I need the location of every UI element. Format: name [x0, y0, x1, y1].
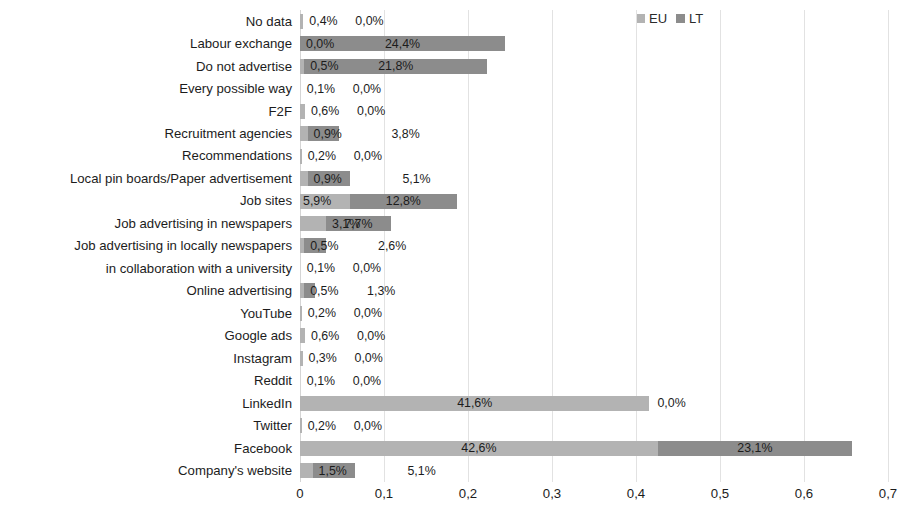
bar-value-label: 0,0% [353, 82, 381, 96]
bar-segment-eu[interactable]: 0,9% [300, 126, 308, 141]
bar-row[interactable]: in collaboration with a university0,1%0,… [300, 257, 888, 279]
category-label: Company's website [178, 464, 300, 477]
bar-value-label: 0,9% [314, 172, 342, 186]
x-tick-label: 0,3 [543, 486, 561, 501]
category-label: LinkedIn [242, 397, 300, 410]
category-label: Do not advertise [196, 60, 300, 73]
bar-value-label: 41,6% [457, 396, 492, 410]
category-label: in collaboration with a university [106, 262, 300, 275]
bar-value-label: 0,4% [309, 14, 337, 28]
bar-stack: 0,2%0,0% [300, 149, 888, 164]
x-tick-label: 0 [296, 486, 303, 501]
x-tick-label: 0,4 [627, 486, 645, 501]
bar-segment-eu[interactable]: 1,5% [300, 463, 313, 478]
bar-row[interactable]: Job advertising in newspapers3,1%7,7% [300, 212, 888, 234]
bar-value-label: 0,1% [307, 261, 335, 275]
bar-segment-eu[interactable]: 0,2% [300, 306, 302, 321]
bar-row[interactable]: Facebook42,6%23,1% [300, 437, 888, 459]
bar-segment-eu[interactable]: 0,2% [300, 418, 302, 433]
bar-value-label: 0,0% [353, 374, 381, 388]
bar-stack: 0,0%24,4% [300, 36, 888, 51]
bar-rows: No data0,4%0,0%Labour exchange0,0%24,4%D… [300, 10, 888, 482]
bar-segment-eu[interactable]: 42,6% [300, 441, 658, 456]
bar-value-label: 0,2% [308, 149, 336, 163]
category-label: Reddit [254, 374, 300, 387]
category-label: Job advertising in newspapers [115, 217, 300, 230]
bar-segment-lt[interactable]: 12,8% [350, 194, 458, 209]
category-label: Facebook [234, 442, 300, 455]
category-label: Recruitment agencies [164, 127, 300, 140]
bar-row[interactable]: Instagram0,3%0,0% [300, 347, 888, 369]
bar-value-label: 0,9% [314, 127, 342, 141]
bar-row[interactable]: Job sites5,9%12,8% [300, 190, 888, 212]
bar-row[interactable]: YouTube0,2%0,0% [300, 302, 888, 324]
bar-segment-eu[interactable]: 3,1% [300, 216, 326, 231]
bar-stack: 0,5%1,3% [300, 283, 888, 298]
category-label: Twitter [253, 419, 300, 432]
bar-stack: 42,6%23,1% [300, 441, 888, 456]
bar-value-label: 0,5% [310, 239, 338, 253]
bar-value-label: 0,0% [355, 14, 383, 28]
bar-row[interactable]: No data0,4%0,0% [300, 10, 888, 32]
bar-segment-eu[interactable]: 41,6% [300, 396, 649, 411]
bar-row[interactable]: Local pin boards/Paper advertisement0,9%… [300, 167, 888, 189]
plot-area: No data0,4%0,0%Labour exchange0,0%24,4%D… [300, 10, 888, 482]
category-label: Labour exchange [190, 37, 300, 50]
bar-row[interactable]: Labour exchange0,0%24,4% [300, 32, 888, 54]
x-tick-label: 0,5 [711, 486, 729, 501]
gridline-0,7 [888, 10, 889, 482]
bar-segment-eu[interactable]: 0,1% [300, 261, 301, 276]
x-tick-label: 0,2 [459, 486, 477, 501]
bar-segment-eu[interactable]: 0,3% [300, 351, 303, 366]
bar-value-label: 12,8% [386, 194, 421, 208]
bar-stack: 0,6%0,0% [300, 104, 888, 119]
bar-row[interactable]: Reddit0,1%0,0% [300, 370, 888, 392]
bar-segment-eu[interactable]: 5,9% [300, 194, 350, 209]
bar-stack: 0,2%0,0% [300, 418, 888, 433]
category-label: Job sites [240, 194, 300, 207]
bar-value-label: 0,0% [353, 261, 381, 275]
bar-row[interactable]: Google ads0,6%0,0% [300, 325, 888, 347]
bar-stack: 1,5%5,1% [300, 463, 888, 478]
bar-segment-eu[interactable]: 0,6% [300, 328, 305, 343]
bar-row[interactable]: Recruitment agencies0,9%3,8% [300, 122, 888, 144]
bar-segment-eu[interactable]: 0,1% [300, 81, 301, 96]
bar-value-label: 0,1% [307, 82, 335, 96]
bar-row[interactable]: F2F0,6%0,0% [300, 100, 888, 122]
bar-stack: 41,6%0,0% [300, 396, 888, 411]
bar-row[interactable]: Job advertising in locally newspapers0,5… [300, 235, 888, 257]
bar-row[interactable]: Company's website1,5%5,1% [300, 460, 888, 482]
bar-value-label: 7,7% [344, 217, 372, 231]
bar-segment-eu[interactable]: 0,4% [300, 14, 303, 29]
bar-row[interactable]: Online advertising0,5%1,3% [300, 280, 888, 302]
bar-stack: 0,4%0,0% [300, 14, 888, 29]
bar-row[interactable]: Every possible way0,1%0,0% [300, 77, 888, 99]
category-label: Instagram [233, 352, 300, 365]
bar-value-label: 42,6% [461, 441, 496, 455]
category-label: Recommendations [182, 149, 300, 162]
bar-stack: 0,5%2,6% [300, 238, 888, 253]
bar-value-label: 5,9% [303, 194, 331, 208]
category-label: Job advertising in locally newspapers [74, 239, 300, 252]
bar-value-label: 5,1% [407, 464, 435, 478]
bar-value-label: 0,0% [657, 396, 685, 410]
bar-row[interactable]: Do not advertise0,5%21,8% [300, 55, 888, 77]
bar-row[interactable]: LinkedIn41,6%0,0% [300, 392, 888, 414]
bar-stack: 0,1%0,0% [300, 81, 888, 96]
x-axis: 00,10,20,30,40,50,60,7 [300, 486, 888, 510]
bar-segment-eu[interactable]: 0,9% [300, 171, 308, 186]
bar-row[interactable]: Twitter0,2%0,0% [300, 415, 888, 437]
bar-segment-eu[interactable]: 0,2% [300, 149, 302, 164]
bar-value-label: 0,0% [354, 419, 382, 433]
bar-value-label: 2,6% [378, 239, 406, 253]
bar-value-label: 1,5% [319, 464, 347, 478]
bar-segment-eu[interactable]: 0,1% [300, 373, 301, 388]
bar-stack: 0,9%5,1% [300, 171, 888, 186]
category-label: Online advertising [186, 284, 300, 297]
bar-segment-lt[interactable]: 23,1% [658, 441, 852, 456]
bar-row[interactable]: Recommendations0,2%0,0% [300, 145, 888, 167]
bar-stack: 0,5%21,8% [300, 59, 888, 74]
bar-stack: 5,9%12,8% [300, 194, 888, 209]
bar-segment-eu[interactable]: 0,6% [300, 104, 305, 119]
bar-stack: 0,9%3,8% [300, 126, 888, 141]
